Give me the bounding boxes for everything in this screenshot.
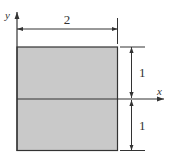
width-label: 2 [64,12,71,27]
y-axis-label: y [4,9,10,21]
upper-height-label: 1 [139,65,146,80]
lower-height-label: 1 [139,118,146,133]
x-axis-label: x [156,85,162,97]
diagram-canvas: y x 2 1 1 [0,0,171,157]
